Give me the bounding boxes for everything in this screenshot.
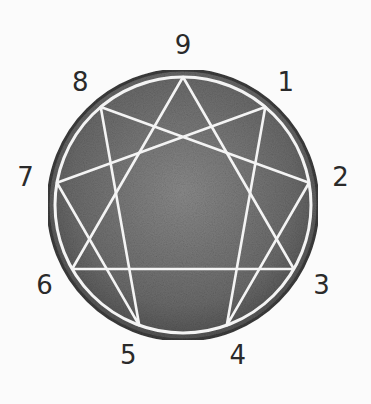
point-label-8: 8 <box>72 67 89 97</box>
point-label-9: 9 <box>175 30 192 60</box>
outer-circle <box>48 70 318 340</box>
point-label-6: 6 <box>36 270 53 300</box>
point-label-7: 7 <box>17 162 34 192</box>
enneagram-diagram: 912345678 <box>0 0 371 404</box>
point-label-5: 5 <box>120 340 137 370</box>
point-label-2: 2 <box>332 162 349 192</box>
point-label-4: 4 <box>229 340 246 370</box>
point-label-3: 3 <box>313 270 330 300</box>
point-label-1: 1 <box>278 67 295 97</box>
